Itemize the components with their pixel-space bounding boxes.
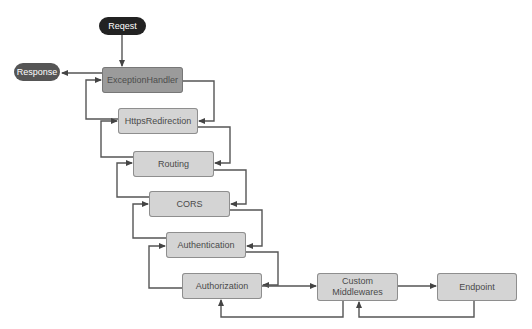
node-label: ExceptionHandler: [107, 75, 178, 86]
node-custom-middlewares: Custom Middlewares: [317, 273, 398, 301]
node-exception-handler: ExceptionHandler: [102, 67, 183, 93]
response-label: Response: [17, 67, 58, 77]
request-label: Reqest: [108, 21, 137, 31]
node-label: HttpsRedirection: [125, 116, 192, 127]
node-endpoint: Endpoint: [437, 273, 517, 301]
node-authorization: Authorization: [182, 273, 262, 299]
node-label: Authentication: [177, 240, 234, 251]
node-label: Endpoint: [459, 282, 495, 293]
node-label: CORS: [176, 199, 202, 210]
node-routing: Routing: [133, 151, 214, 177]
node-label: Authorization: [196, 281, 249, 292]
node-https-redirection: HttpsRedirection: [118, 108, 198, 134]
node-authentication: Authentication: [166, 232, 246, 258]
node-label: Routing: [158, 159, 189, 170]
node-cors: CORS: [149, 191, 230, 217]
response-terminal: Response: [14, 63, 60, 81]
node-label: Custom Middlewares: [332, 276, 383, 298]
request-terminal: Reqest: [99, 17, 146, 35]
middleware-pipeline-diagram: Reqest Response ExceptionHandler HttpsRe…: [0, 0, 532, 329]
